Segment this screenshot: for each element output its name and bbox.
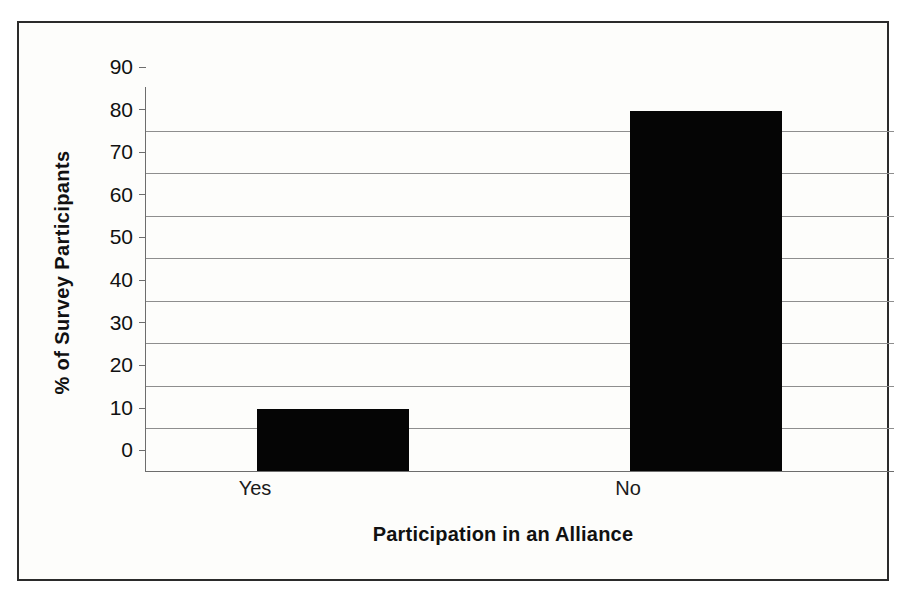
y-tick-mark-30 bbox=[139, 322, 146, 323]
y-tick-mark-90 bbox=[139, 67, 146, 68]
y-tick-label-70: 70 bbox=[93, 141, 133, 162]
y-tick-mark-10 bbox=[139, 408, 146, 409]
gridline-0 bbox=[146, 471, 894, 472]
bar-no[interactable] bbox=[630, 111, 782, 471]
x-category-label-yes: Yes bbox=[130, 478, 380, 498]
y-tick-label-90: 90 bbox=[93, 56, 133, 77]
y-tick-label-0: 0 bbox=[93, 439, 133, 460]
y-tick-label-50: 50 bbox=[93, 226, 133, 247]
y-tick-label-40: 40 bbox=[93, 269, 133, 290]
y-axis-title: % of Survey Participants bbox=[51, 73, 74, 473]
y-tick-label-10: 10 bbox=[93, 397, 133, 418]
y-tick-mark-40 bbox=[139, 280, 146, 281]
figure: % of Survey Participants 90 80 70 60 50 … bbox=[0, 0, 904, 597]
y-tick-mark-60 bbox=[139, 194, 146, 195]
chart-frame: % of Survey Participants 90 80 70 60 50 … bbox=[17, 21, 889, 581]
y-tick-label-20: 20 bbox=[93, 354, 133, 375]
y-tick-mark-80 bbox=[139, 109, 146, 110]
y-tick-mark-20 bbox=[139, 365, 146, 366]
plot-area bbox=[146, 88, 894, 471]
y-tick-mark-50 bbox=[139, 237, 146, 238]
y-tick-label-60: 60 bbox=[93, 184, 133, 205]
x-axis-title: Participation in an Alliance bbox=[129, 523, 877, 546]
y-tick-label-group: 90 80 70 60 50 40 30 20 10 0 bbox=[87, 23, 133, 597]
y-tick-mark-0 bbox=[139, 450, 146, 451]
y-tick-label-30: 30 bbox=[93, 312, 133, 333]
y-tick-label-80: 80 bbox=[93, 99, 133, 120]
x-category-label-no: No bbox=[503, 478, 753, 498]
y-tick-mark-70 bbox=[139, 152, 146, 153]
bar-yes[interactable] bbox=[257, 409, 409, 471]
